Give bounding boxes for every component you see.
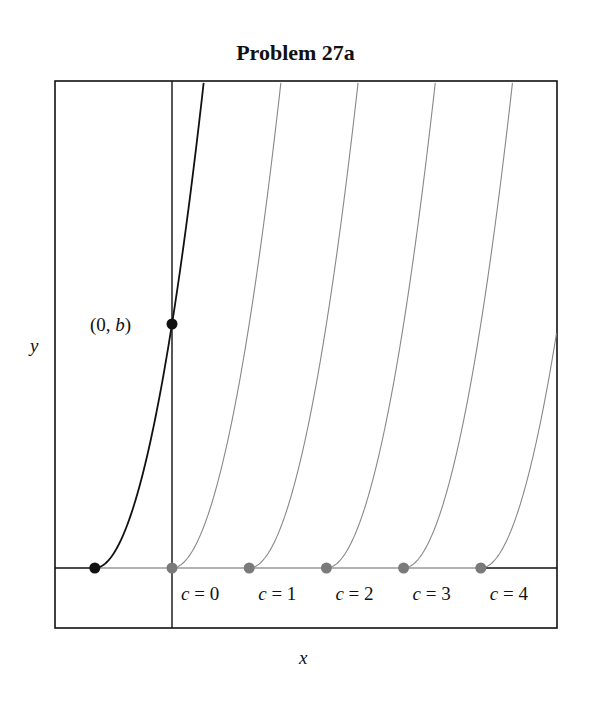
chart-canvas: (0, b) c = 0c = 1c = 2c = 3c = 4 y x [0,0,591,705]
start-point-highlight [89,563,100,574]
family-curve-c4 [481,334,557,568]
y-axis-label: y [28,335,39,356]
start-point-c4 [475,563,486,574]
c-labels: c = 0c = 1c = 2c = 3c = 4 [181,583,528,604]
start-point-c3 [398,563,409,574]
plot-frame [55,81,557,628]
start-point-c1 [244,563,255,574]
family-curve-c0 [172,83,281,568]
family-curve-c3 [404,83,513,568]
c-label-3: c = 3 [413,583,451,604]
point-label: (0, b) [90,314,131,336]
c-label-2: c = 2 [335,583,373,604]
start-point-c0 [167,563,178,574]
c-label-0: c = 0 [181,583,219,604]
solution-curves [95,83,557,568]
family-curve-c1 [249,83,358,568]
c-label-1: c = 1 [258,583,296,604]
start-point-c2 [321,563,332,574]
family-curve-c2 [326,83,435,568]
x-axis-label: x [298,647,308,668]
point-0-b [167,319,178,330]
c-label-4: c = 4 [490,583,529,604]
